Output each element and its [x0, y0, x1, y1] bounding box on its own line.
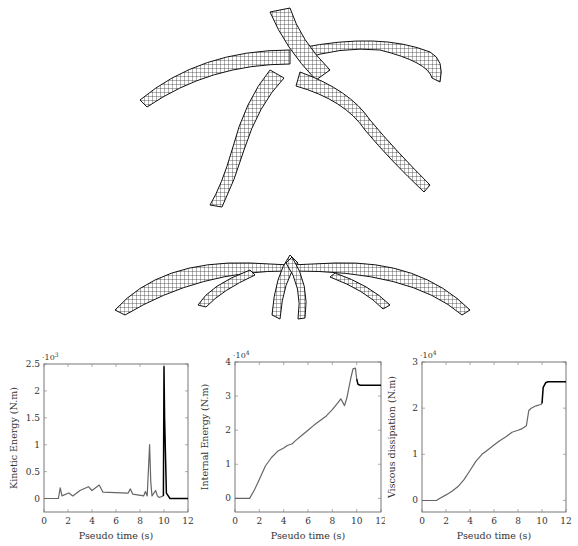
data-line-final: [542, 382, 566, 404]
mesh-oblique-view: [0, 0, 578, 215]
x-tick-label: 10: [351, 516, 363, 526]
data-line: [44, 445, 163, 499]
x-tick-label: 0: [419, 516, 425, 526]
y-tick-label: 0: [412, 495, 418, 505]
y-tick-label: 3: [412, 357, 418, 367]
y-tick-label: 2.5: [26, 359, 41, 369]
x-axis-label: Pseudo time (s): [79, 530, 153, 541]
x-tick-label: 12: [560, 516, 571, 526]
mesh-side-view: [0, 215, 578, 335]
x-tick-label: 4: [281, 516, 287, 526]
y-multiplier: ·103: [42, 351, 59, 362]
y-tick-label: 1: [412, 449, 418, 459]
data-line-final: [357, 379, 381, 385]
x-axis-label: Pseudo time (s): [271, 530, 345, 541]
viscous-dissipation-chart: 0246810120123·104Pseudo time (s)Viscous …: [380, 330, 578, 546]
x-tick-label: 8: [329, 516, 335, 526]
y-tick-label: 3: [225, 391, 231, 401]
y-tick-label: 0.5: [26, 467, 41, 477]
x-tick-label: 0: [232, 516, 238, 526]
y-tick-label: 1: [225, 459, 231, 469]
x-tick-label: 2: [256, 516, 262, 526]
y-tick-label: 2: [412, 403, 418, 413]
y-axis-label: Kinetic Energy (N.m): [8, 387, 19, 489]
y-tick-label: 2: [225, 425, 231, 435]
x-axis-label: Pseudo time (s): [457, 530, 531, 541]
y-tick-label: 4: [225, 357, 231, 367]
x-tick-label: 6: [113, 516, 119, 526]
x-tick-label: 8: [515, 516, 521, 526]
y-tick-label: 2: [34, 386, 40, 396]
x-tick-label: 4: [467, 516, 473, 526]
kinetic-energy-chart: 02468101200.511.522.5·103Pseudo time (s)…: [0, 330, 195, 546]
data-line: [235, 368, 357, 498]
data-line: [422, 404, 542, 501]
x-tick-label: 4: [89, 516, 95, 526]
x-tick-label: 8: [137, 516, 143, 526]
x-tick-label: 2: [443, 516, 449, 526]
y-tick-label: 1.5: [26, 413, 41, 423]
data-line-final: [163, 367, 188, 499]
y-multiplier: ·104: [420, 349, 437, 360]
y-multiplier: ·104: [233, 349, 250, 360]
y-tick-label: 0: [225, 493, 231, 503]
internal-energy-chart: 02468101201234·104Pseudo time (s)Interna…: [190, 330, 385, 546]
x-tick-label: 10: [158, 516, 170, 526]
x-tick-label: 0: [41, 516, 47, 526]
x-tick-label: 6: [491, 516, 497, 526]
y-axis-label: Viscous dissipation (N.m): [386, 376, 397, 499]
y-tick-label: 0: [34, 494, 40, 504]
y-axis-label: Internal Energy (N.m): [199, 384, 210, 491]
x-tick-label: 10: [536, 516, 548, 526]
y-tick-label: 1: [34, 440, 40, 450]
x-tick-label: 2: [65, 516, 71, 526]
x-tick-label: 6: [305, 516, 311, 526]
